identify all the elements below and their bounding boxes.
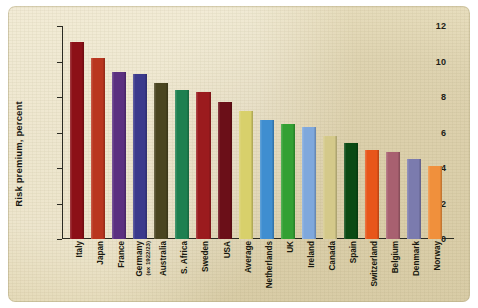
bar[interactable] [428,166,442,239]
x-axis-label: Average [244,241,253,273]
bar[interactable] [281,124,295,239]
bar[interactable] [175,90,189,239]
y-tick [57,239,62,240]
bar[interactable] [386,152,400,239]
x-axis-label: S. Africa [181,241,190,274]
x-axis-label: Ireland [308,241,317,268]
x-axis-label: Sweden [202,241,211,272]
x-axis-label: Norway [434,241,443,271]
bar[interactable] [218,102,232,239]
plot-area: 024681012 ItalyJapanFranceGermany(ex 192… [62,20,454,239]
x-axis-label: Switzerland [371,241,380,287]
bar[interactable] [112,72,126,239]
bar[interactable] [365,150,379,239]
x-axis-label: Spain [350,241,359,263]
x-axis-label: Italy [76,241,85,257]
bar[interactable] [70,42,84,239]
bar[interactable] [323,136,337,239]
y-axis-title: Risk premium, percent [13,101,24,207]
bar[interactable] [91,58,105,239]
x-axis-label: Australia [160,241,169,276]
x-axis-label: UK [286,241,295,253]
x-axis-label: Denmark [413,241,422,276]
x-axis-label: France [118,241,127,268]
bar[interactable] [133,74,147,239]
x-axis-sublabel: (ex 1922/23) [144,241,150,277]
bar[interactable] [196,92,210,239]
bar[interactable] [239,111,253,239]
chart-figure: Risk premium, percent 024681012 ItalyJap… [8,6,470,302]
bar[interactable] [260,120,274,239]
x-axis-label: Germany(ex 1922/23) [136,241,151,277]
x-axis-label: Japan [97,241,106,265]
x-axis-label: Netherlands [265,241,274,288]
bar[interactable] [302,127,316,239]
x-axis-label: USA [223,241,232,258]
x-axis-label: Canada [329,241,338,271]
bar[interactable] [407,159,421,239]
bar[interactable] [344,143,358,239]
x-axis-label: Belgium [392,241,401,273]
bar-series [62,26,454,239]
bar[interactable] [154,83,168,239]
